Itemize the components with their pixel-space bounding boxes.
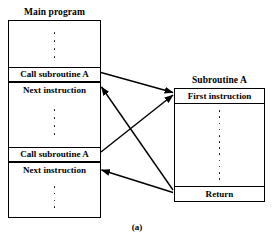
main-program-row-next-1: Next instruction [9, 82, 100, 97]
main-program-dots-middle [9, 99, 100, 145]
arrow-return-to-next-instruction-2 [102, 170, 174, 193]
arrow-return-to-next-instruction-1 [102, 87, 174, 190]
subroutine-return-label: Return [206, 190, 234, 199]
main-program-title: Main program [8, 7, 101, 17]
main-program-next-2-label: Next instruction [23, 166, 86, 175]
subroutine-row-return: Return [175, 186, 264, 201]
subroutine-row-first-instruction: First instruction [175, 89, 264, 104]
subroutine-first-instruction-label: First instruction [188, 92, 252, 101]
main-program-dots-bottom [9, 179, 100, 215]
main-program-box: Call subroutine A Next instruction Call … [8, 20, 101, 218]
main-program-row-next-2: Next instruction [9, 162, 100, 177]
main-program-call-1-label: Call subroutine A [20, 70, 89, 79]
figure-caption: (a) [0, 222, 274, 232]
arrow-call-1-to-first-instruction [101, 73, 173, 93]
subroutine-dots [175, 106, 264, 184]
subroutine-box: First instruction Return [174, 88, 265, 202]
arrow-call-2-to-first-instruction [101, 95, 173, 152]
main-program-row-call-2: Call subroutine A [9, 147, 100, 162]
subroutine-title: Subroutine A [174, 75, 265, 85]
main-program-call-2-label: Call subroutine A [20, 150, 89, 159]
subroutine-call-diagram: Main program Call subroutine A Next inst… [0, 0, 274, 244]
main-program-next-1-label: Next instruction [23, 86, 86, 95]
main-program-row-call-1: Call subroutine A [9, 67, 100, 82]
main-program-dots-top [9, 23, 100, 67]
